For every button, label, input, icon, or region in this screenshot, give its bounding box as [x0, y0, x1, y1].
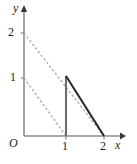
x-axis-arrow-icon [120, 133, 126, 140]
outer-dashed-line [24, 33, 104, 136]
x-axis-tick-label-2: 2 [100, 140, 106, 152]
hypotenuse-segment [66, 76, 104, 136]
y-axis-tick-label-1: 1 [10, 71, 16, 83]
y-axis-arrow-icon [21, 5, 27, 12]
origin-label: O [9, 137, 18, 149]
y-axis-tick-label-2: 2 [8, 26, 14, 38]
y-axis-label: y [13, 2, 18, 14]
x-axis-label: x [115, 139, 120, 151]
inner-dashed-line [24, 78, 66, 136]
x-axis-tick-label-1: 1 [62, 140, 68, 152]
coordinate-plane-figure: y x O 1 2 1 2 [0, 0, 137, 164]
